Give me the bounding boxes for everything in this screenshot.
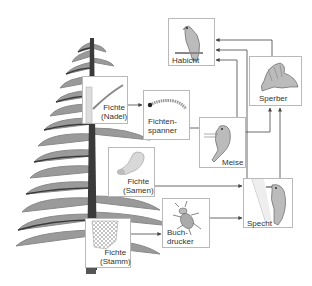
- node-fichte-samen: Fichte (Samen): [108, 147, 155, 197]
- node-fichte-nadel: Fichte (Nadel): [82, 76, 128, 124]
- node-label: Sperber: [259, 94, 287, 103]
- arrow-meise-to-habicht: [216, 60, 237, 117]
- node-label: Fichte (Stamm): [100, 248, 131, 266]
- node-label: Buch- drucker: [167, 228, 194, 246]
- node-sperber: Sperber: [249, 56, 302, 106]
- node-label: Fichten- spanner: [148, 117, 177, 135]
- node-label: Meise: [222, 158, 243, 167]
- node-fichte-stamm: Fichte (Stamm): [85, 218, 131, 268]
- node-buchdrucker: Buch- drucker: [162, 198, 210, 248]
- node-label: Specht: [247, 219, 272, 228]
- arrow-meise-to-sperber: [246, 108, 270, 132]
- node-label: Fichte (Samen): [123, 177, 154, 195]
- node-label: Habicht: [172, 56, 199, 65]
- node-habicht: Habicht: [168, 18, 215, 66]
- arrows-layer: [0, 0, 312, 286]
- node-specht: Specht: [243, 178, 293, 228]
- node-meise: Meise: [199, 117, 246, 168]
- node-label: Fichte (Nadel): [101, 103, 127, 121]
- food-web-diagram: Habicht Sperber Fichte (Nadel) Fichten- …: [0, 0, 312, 286]
- arrow-sperber-to-habicht: [216, 40, 272, 56]
- node-fichtenspanner: Fichten- spanner: [143, 90, 190, 140]
